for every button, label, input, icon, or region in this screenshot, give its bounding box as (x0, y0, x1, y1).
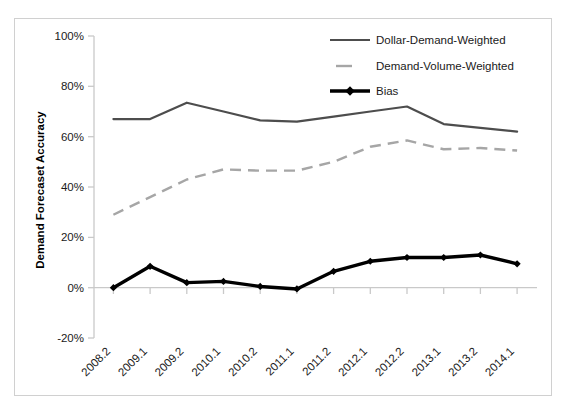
legend-label-bias: Bias (376, 85, 399, 97)
y-tick-label: 60% (61, 131, 84, 143)
x-tick-label: 2013.1 (409, 345, 442, 378)
x-tick-label: 2011.1 (263, 345, 296, 378)
legend-label-dollar-demand-weighted: Dollar-Demand-Weighted (376, 34, 506, 46)
y-tick-label: 0% (67, 282, 84, 294)
x-axis-ticks (113, 288, 517, 294)
series-line-dollar-demand-weighted (113, 103, 517, 132)
y-tick-label: -20% (57, 332, 84, 344)
data-point-marker (440, 254, 447, 261)
x-tick-label: 2008.2 (79, 345, 112, 378)
x-tick-label: 2009.1 (116, 345, 149, 378)
x-tick-label: 2014.1 (483, 345, 516, 378)
data-point-marker (257, 283, 264, 290)
y-tick-label: 20% (61, 231, 84, 243)
x-tick-label: 2012.2 (373, 345, 406, 378)
y-tick-label: 40% (61, 181, 84, 193)
x-tick-label: 2013.2 (446, 345, 479, 378)
x-tick-label: 2010.1 (189, 345, 222, 378)
y-tick-label: 80% (61, 80, 84, 92)
y-tick-label: 100% (55, 30, 84, 42)
x-tick-label: 2009.2 (152, 345, 185, 378)
series-line-bias (113, 255, 517, 289)
legend-label-demand-volume-weighted: Demand-Volume-Weighted (376, 60, 514, 72)
data-point-marker (367, 258, 374, 265)
y-axis-ticks (88, 36, 94, 338)
y-axis-title: Demand Forecaset Accuracy (34, 111, 46, 269)
data-point-marker (514, 260, 521, 267)
data-point-marker (403, 254, 410, 261)
x-tick-label: 2012.1 (336, 345, 369, 378)
line-chart: 100% 80% 60% 40% 20% 0% -20% Demand Fore… (0, 0, 565, 407)
series-line-demand-volume-weighted (113, 140, 517, 214)
x-tick-label: 2011.2 (300, 345, 333, 378)
y-tick-labels: 100% 80% 60% 40% 20% 0% -20% (55, 30, 84, 344)
data-point-marker (220, 278, 227, 285)
legend-marker-bias-diamond (345, 86, 355, 96)
x-tick-label: 2010.2 (226, 345, 259, 378)
data-point-marker (477, 251, 484, 258)
x-tick-labels: 2008.2 2009.1 2009.2 2010.1 2010.2 2011.… (79, 345, 516, 378)
chart-legend: Dollar-Demand-Weighted Demand-Volume-Wei… (330, 34, 514, 97)
